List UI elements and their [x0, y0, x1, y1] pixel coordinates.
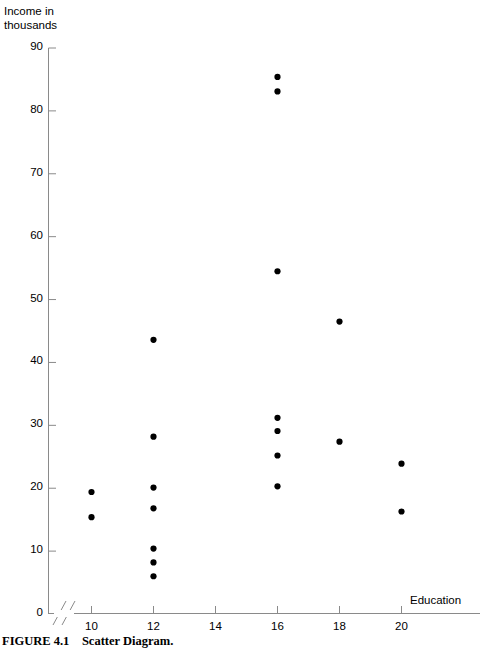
data-point: [150, 505, 156, 511]
data-point: [150, 559, 156, 565]
x-tick-marks: [92, 606, 402, 614]
figure-caption-text: Scatter Diagram.: [82, 634, 173, 648]
data-point: [398, 508, 404, 514]
axis-lines: [49, 48, 481, 614]
data-point-group: [88, 74, 404, 580]
data-point: [88, 514, 94, 520]
figure-caption-label: FIGURE 4.1: [2, 634, 69, 648]
data-point: [398, 461, 404, 467]
data-point: [336, 318, 342, 324]
scatter-plot-canvas: [0, 0, 486, 653]
data-point: [336, 439, 342, 445]
data-point: [150, 573, 156, 579]
data-point: [274, 415, 280, 421]
data-point: [150, 484, 156, 490]
data-point: [150, 545, 156, 551]
data-point: [150, 434, 156, 440]
figure-caption: FIGURE 4.1 Scatter Diagram.: [2, 634, 173, 649]
y-tick-marks: [49, 48, 57, 551]
data-point: [274, 74, 280, 80]
x-axis-break-icon: [53, 601, 75, 625]
data-point: [150, 337, 156, 343]
data-point: [274, 483, 280, 489]
data-point: [274, 268, 280, 274]
data-point: [274, 428, 280, 434]
data-point: [88, 489, 94, 495]
data-point: [274, 452, 280, 458]
data-point: [274, 88, 280, 94]
